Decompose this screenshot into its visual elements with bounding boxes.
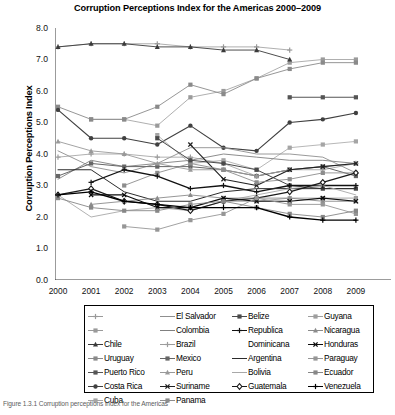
- series-costa-rica: [56, 108, 358, 153]
- legend-label: Puerto Rico: [104, 368, 145, 377]
- legend-marker-peru-icon: [160, 368, 175, 377]
- legend-label: Honduras: [324, 340, 358, 349]
- legend-item-paraguay[interactable]: Paraguay: [308, 354, 374, 363]
- legend-item-brazil[interactable]: Brazil: [160, 340, 232, 349]
- legend-marker-belize-icon: [232, 312, 247, 321]
- legend-label: Uruguay: [104, 354, 134, 363]
- figure-container: Corruption Perceptions Index for the Ame…: [0, 0, 395, 415]
- legend-marker-nicaragua-icon: [308, 326, 323, 335]
- legend-item-suriname[interactable]: Suriname: [160, 382, 232, 391]
- legend-item-republica[interactable]: Republica: [232, 326, 308, 335]
- series-puerto-rico: [288, 95, 358, 99]
- legend-item-guyana[interactable]: Guyana: [308, 312, 374, 321]
- legend-marker-guatemala-icon: [232, 382, 247, 391]
- y-tick-0.0: 0.0: [14, 275, 48, 285]
- series-uruguay: [56, 61, 358, 122]
- legend-label: Paraguay: [324, 354, 358, 363]
- legend-item-unlabeled-0-1[interactable]: [88, 326, 160, 335]
- legend-item-belize[interactable]: Belize: [232, 312, 308, 321]
- legend-label: Ecuador: [324, 368, 353, 377]
- legend-label: Venezuela: [324, 382, 361, 391]
- legend-item-unlabeled-0-0[interactable]: [88, 312, 160, 321]
- legend-label: Suriname: [176, 382, 210, 391]
- plot-area: [55, 28, 391, 280]
- y-tick-7.0: 7.0: [14, 54, 48, 64]
- legend-label: Colombia: [176, 326, 209, 335]
- legend-label: Guyana: [324, 312, 352, 321]
- legend-marker-colombia-icon: [160, 326, 175, 335]
- legend-item-el-salvador[interactable]: El Salvador: [160, 312, 232, 321]
- legend-item-mexico[interactable]: Mexico: [160, 354, 232, 363]
- legend-label: Bolivia: [248, 368, 271, 377]
- legend-item-guatemala[interactable]: Guatemala: [232, 382, 308, 391]
- legend-marker-paraguay-icon: [308, 354, 323, 363]
- legend-item-chile[interactable]: Chile: [88, 340, 160, 349]
- legend-marker-guyana-icon: [308, 312, 323, 321]
- legend-label: Belize: [248, 312, 269, 321]
- legend-marker-suriname-icon: [160, 382, 175, 391]
- legend-label: Mexico: [176, 354, 201, 363]
- legend-marker-bolivia-icon: [232, 368, 247, 377]
- legend-label: Brazil: [176, 340, 195, 349]
- legend-marker-costa-rica-icon: [88, 382, 103, 391]
- legend-item-colombia[interactable]: Colombia: [160, 326, 232, 335]
- legend-marker-ecuador-icon: [308, 368, 323, 377]
- y-tick-5.0: 5.0: [14, 117, 48, 127]
- legend-item-costa-rica[interactable]: Costa Rica: [88, 382, 160, 391]
- legend-label: Nicaragua: [324, 326, 360, 335]
- legend-item-honduras[interactable]: Honduras: [308, 340, 374, 349]
- legend-item-puerto-rico[interactable]: Puerto Rico: [88, 368, 160, 377]
- legend-label: Guatemala: [248, 382, 286, 391]
- y-tick-1.0: 1.0: [14, 243, 48, 253]
- legend-label: El Salvador: [176, 312, 216, 321]
- y-tick-6.0: 6.0: [14, 86, 48, 96]
- legend-label: Chile: [104, 340, 122, 349]
- legend-marker-mexico-icon: [160, 354, 175, 363]
- legend-marker-argentina-icon: [232, 354, 247, 363]
- legend-label: Argentina: [248, 354, 281, 363]
- page-title: Corruption Perceptions Index for the Ame…: [0, 3, 395, 13]
- figure-caption: Figure 1.3.1 Corruption perceptions inde…: [3, 400, 392, 414]
- legend-marker-el-salvador-icon: [160, 312, 175, 321]
- series-chile: [56, 41, 293, 62]
- legend-item-nicaragua[interactable]: Nicaragua: [308, 326, 374, 335]
- legend-grid: El SalvadorBelizeGuyanaColombiaRepublica…: [88, 309, 371, 407]
- chart-legend: El SalvadorBelizeGuyanaColombiaRepublica…: [84, 305, 374, 393]
- legend-item-bolivia[interactable]: Bolivia: [232, 368, 308, 377]
- legend-label: Peru: [176, 368, 193, 377]
- legend-marker-chile-icon: [88, 340, 103, 349]
- y-tick-3.0: 3.0: [14, 180, 48, 190]
- y-tick-2.0: 2.0: [14, 212, 48, 222]
- legend-marker-venezuela-icon: [308, 382, 323, 391]
- legend-item-uruguay[interactable]: Uruguay: [88, 354, 160, 363]
- legend-item-argentina[interactable]: Argentina: [232, 354, 308, 363]
- legend-marker-unlabeled-0-0-icon: [88, 312, 103, 321]
- y-tick-8.0: 8.0: [14, 23, 48, 33]
- legend-marker-puerto-rico-icon: [88, 368, 103, 377]
- legend-item-ecuador[interactable]: Ecuador: [308, 368, 374, 377]
- x-tick-2009: 2009: [336, 286, 376, 296]
- legend-label: Costa Rica: [104, 382, 142, 391]
- line-chart-canvas: [55, 28, 391, 280]
- legend-marker-honduras-icon: [308, 340, 323, 349]
- legend-item-dominicana[interactable]: Dominicana: [232, 340, 308, 349]
- legend-label: Republica: [248, 326, 283, 335]
- legend-marker-brazil-icon: [160, 340, 175, 349]
- legend-marker-unlabeled-0-1-icon: [88, 326, 103, 335]
- legend-marker-republica-icon: [232, 326, 247, 335]
- series-peru: [56, 139, 359, 178]
- series-bolivia: [58, 186, 356, 218]
- legend-marker-uruguay-icon: [88, 354, 103, 363]
- y-tick-4.0: 4.0: [14, 149, 48, 159]
- legend-label: Dominicana: [248, 340, 289, 349]
- legend-item-venezuela[interactable]: Venezuela: [308, 382, 374, 391]
- legend-item-peru[interactable]: Peru: [160, 368, 232, 377]
